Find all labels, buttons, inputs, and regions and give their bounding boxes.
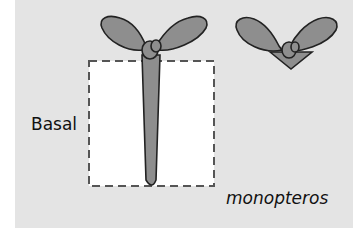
basal-label: Basal <box>31 114 77 134</box>
genotype-label: monopteros <box>226 188 328 208</box>
seedling-without-root <box>236 18 337 69</box>
